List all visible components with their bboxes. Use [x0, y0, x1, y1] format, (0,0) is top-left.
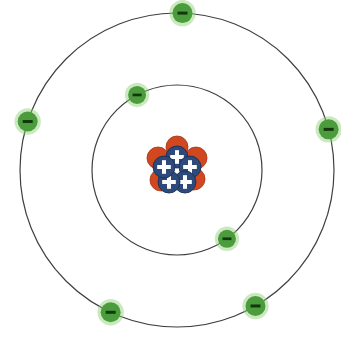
electron-outer-3: [315, 116, 341, 142]
electron-outer-2: [14, 108, 40, 134]
electron-outer-4: [242, 293, 268, 319]
electron-inner-2: [215, 227, 239, 251]
atom-canvas: [0, 0, 341, 342]
orbit-inner-shell: [92, 85, 262, 255]
nucleus-group: [147, 136, 207, 193]
electron-inner-1: [125, 83, 149, 107]
electron-outer-5: [97, 299, 123, 325]
atomic-model-diagram: [0, 0, 341, 342]
electron-outer-1: [169, 0, 195, 26]
orbit-shells-group: [20, 13, 334, 327]
proton-5: [153, 156, 175, 178]
orbit-outer-shell: [20, 13, 334, 327]
